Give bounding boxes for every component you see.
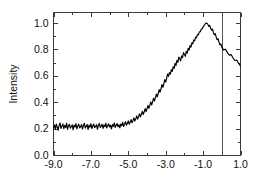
x-tick-label: -3.0 (157, 158, 175, 170)
x-tick-label: -5.0 (119, 158, 137, 170)
x-tick-label: -1.0 (194, 158, 212, 170)
intensity-spectrum-chart: -9.0-7.0-5.0-3.0-1.01.0 0.00.20.40.60.81… (0, 0, 255, 178)
y-tick-label: 0.2 (34, 122, 49, 134)
y-tick-label: 0.6 (34, 69, 49, 81)
y-axis-title: Intensity (7, 64, 19, 104)
y-tick-label: 0.4 (34, 96, 49, 108)
chart-figure: -9.0-7.0-5.0-3.0-1.01.0 0.00.20.40.60.81… (0, 0, 255, 178)
y-tick-label: 0.0 (34, 149, 49, 161)
y-tick-label: 1.0 (34, 17, 49, 29)
y-tick-label: 0.8 (34, 43, 49, 55)
x-tick-label: -7.0 (82, 158, 100, 170)
x-tick-label: 1.0 (233, 158, 248, 170)
